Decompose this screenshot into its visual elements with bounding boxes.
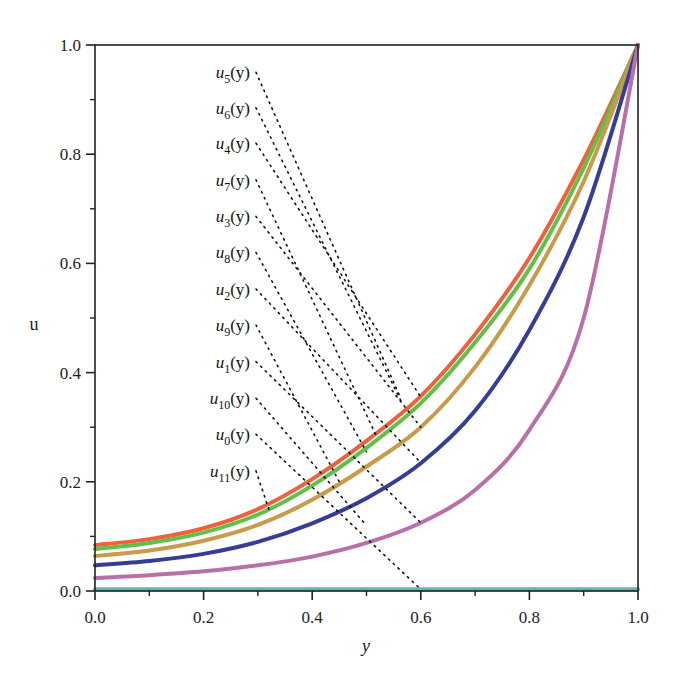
leader-line-u5 [256,72,399,394]
curve-red [95,45,638,545]
y-tick-label: 0.8 [60,145,81,164]
y-tick-label: 0.6 [60,254,81,273]
y-tick-label: 1.0 [60,36,81,55]
line-chart: u5(y)u6(y)u4(y)u7(y)u3(y)u8(y)u2(y)u9(y)… [0,0,683,686]
x-tick-label: 0.4 [302,608,324,627]
y-tick-label: 0.4 [60,364,82,383]
series-label-u5: u5(y) [216,63,250,86]
series-label-u2: u2(y) [216,280,250,303]
y-tick-label: 0.0 [60,582,81,601]
curve-tan [95,45,638,556]
x-axis-title: y [360,636,370,656]
leader-line-u4 [256,143,421,397]
series-label-u8: u8(y) [216,243,250,266]
series-label-u10: u10(y) [210,389,250,412]
x-tick-label: 0.0 [84,608,105,627]
curve-green [95,45,638,549]
series-label-u0: u0(y) [216,425,250,448]
series-label-u4: u4(y) [216,134,250,157]
x-tick-label: 1.0 [627,608,648,627]
leader-line-u2 [256,289,421,463]
leader-line-u6 [256,108,402,403]
x-tick-label: 0.2 [193,608,214,627]
series-label-u9: u9(y) [216,316,250,339]
leader-line-u3 [256,216,421,427]
series-label-u1: u1(y) [216,353,250,376]
series-label-u3: u3(y) [216,207,250,230]
series-label-u7: u7(y) [216,171,250,194]
series-curves [95,45,638,589]
plot-frame [95,45,638,591]
y-tick-label: 0.2 [60,473,81,492]
series-label-u6: u6(y) [216,99,250,122]
series-label-u11: u11(y) [210,462,250,485]
x-tick-label: 0.6 [410,608,431,627]
series-labels: u5(y)u6(y)u4(y)u7(y)u3(y)u8(y)u2(y)u9(y)… [210,63,250,485]
x-tick-label: 0.8 [519,608,540,627]
leader-line-u11 [256,471,269,509]
curve-blue [95,45,638,565]
leader-line-u8 [256,252,367,451]
y-axis-title: u [30,314,39,334]
